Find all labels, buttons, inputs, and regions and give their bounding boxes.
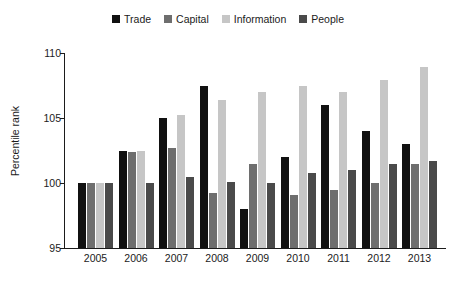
legend-entry: Trade: [112, 14, 151, 25]
bar-group-bars: [159, 53, 194, 248]
bar: [119, 151, 127, 249]
x-axis-tick-label: 2005: [84, 252, 107, 264]
x-axis-tick-label: 2008: [205, 252, 228, 264]
bar-group: 2005: [78, 53, 113, 248]
x-axis-tick-label: 2009: [246, 252, 269, 264]
bar-group-bars: [240, 53, 275, 248]
bar-group-bars: [362, 53, 397, 248]
bar: [281, 157, 289, 248]
bar-group: 2007: [159, 53, 194, 248]
bar-group-bars: [119, 53, 154, 248]
bar: [249, 164, 257, 249]
legend-entry: Information: [222, 14, 287, 25]
x-axis-line: [64, 248, 446, 249]
bar: [177, 115, 185, 248]
legend-entry: Capital: [164, 14, 209, 25]
bar: [146, 183, 154, 248]
x-axis-tick-label: 2012: [367, 252, 390, 264]
bar-group-bars: [281, 53, 316, 248]
chart-legend: TradeCapitalInformationPeople: [0, 14, 456, 25]
bar: [371, 183, 379, 248]
y-axis-tick-label: 105: [43, 112, 61, 124]
y-axis-tick-label: 100: [43, 177, 61, 189]
bar: [227, 182, 235, 248]
bar: [105, 183, 113, 248]
bar: [290, 195, 298, 248]
y-axis-tick-label: 95: [49, 242, 61, 254]
bar-group-bars: [200, 53, 235, 248]
bar-chart: TradeCapitalInformationPeople Percentile…: [0, 0, 456, 281]
bar: [96, 183, 104, 248]
bar: [411, 164, 419, 249]
bar: [209, 193, 217, 248]
x-axis-tick-label: 2013: [408, 252, 431, 264]
y-axis-title: Percentile rank: [4, 0, 26, 281]
bar-group: 2010: [281, 53, 316, 248]
bar: [168, 148, 176, 248]
legend-label: Capital: [176, 14, 209, 25]
bar: [362, 131, 370, 248]
bar: [128, 152, 136, 248]
bar: [321, 105, 329, 248]
bar: [402, 144, 410, 248]
y-axis-title-label: Percentile rank: [9, 105, 21, 175]
bar: [299, 86, 307, 249]
x-axis-tick-label: 2006: [124, 252, 147, 264]
legend-swatch-icon: [164, 15, 172, 23]
bar: [308, 173, 316, 248]
bar-group-bars: [78, 53, 113, 248]
legend-label: Trade: [124, 14, 151, 25]
y-axis-line: [64, 53, 65, 248]
bar-group: 2012: [362, 53, 397, 248]
legend-swatch-icon: [299, 15, 307, 23]
bar-group: 2013: [402, 53, 437, 248]
bar-group-bars: [321, 53, 356, 248]
bar: [429, 161, 437, 248]
bar-group: 2008: [200, 53, 235, 248]
bar: [339, 92, 347, 248]
legend-entry: People: [299, 14, 344, 25]
bar: [78, 183, 86, 248]
bar: [330, 190, 338, 249]
bar: [258, 92, 266, 248]
bar: [218, 100, 226, 248]
x-axis-tick-label: 2011: [327, 252, 350, 264]
bar: [186, 177, 194, 249]
bar: [159, 118, 167, 248]
bar: [348, 170, 356, 248]
bar: [420, 67, 428, 248]
x-axis-tick-label: 2007: [165, 252, 188, 264]
legend-label: People: [311, 14, 344, 25]
bar: [200, 86, 208, 249]
bar-group-bars: [402, 53, 437, 248]
bar-group: 2011: [321, 53, 356, 248]
bar: [267, 183, 275, 248]
bar-group: 2009: [240, 53, 275, 248]
bar: [240, 209, 248, 248]
bar-group: 2006: [119, 53, 154, 248]
bar: [389, 164, 397, 249]
bar: [87, 183, 95, 248]
legend-label: Information: [234, 14, 287, 25]
bar: [137, 151, 145, 249]
y-axis-tick-label: 110: [44, 47, 61, 59]
plot-area: 95100105110 2005200620072008200920102011…: [64, 53, 446, 248]
legend-swatch-icon: [112, 15, 120, 23]
legend-swatch-icon: [222, 15, 230, 23]
x-axis-tick-label: 2010: [286, 252, 309, 264]
bar: [380, 80, 388, 248]
